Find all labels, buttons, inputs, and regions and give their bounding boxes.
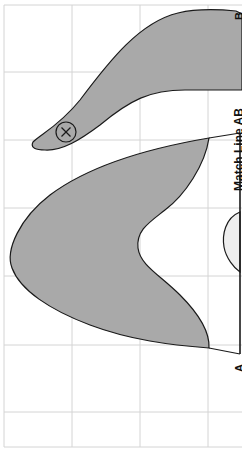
main-shaded-region bbox=[10, 138, 209, 348]
diagram-svg bbox=[0, 0, 242, 449]
bottom-connector-line bbox=[209, 348, 240, 354]
match-line-label: Match Line AB bbox=[232, 108, 242, 191]
point-a-label: A bbox=[233, 364, 242, 372]
light-shaded-region bbox=[223, 212, 240, 272]
point-b-label: B bbox=[233, 12, 242, 20]
diagram-canvas: B Match Line AB A bbox=[0, 0, 242, 449]
